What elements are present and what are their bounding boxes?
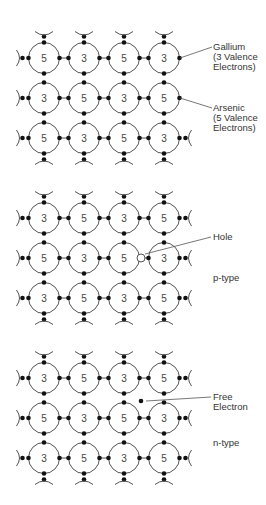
- neighbor-arc: [189, 250, 192, 266]
- hole-marker: [137, 254, 145, 262]
- electron-dot: [137, 136, 142, 141]
- electron-dot: [162, 80, 167, 85]
- electron-dot: [146, 136, 151, 141]
- neighbor-arc: [17, 250, 20, 266]
- electron-dot: [42, 400, 47, 405]
- electron-dot: [146, 456, 151, 461]
- electron-dot: [66, 416, 71, 421]
- electron-dot: [42, 80, 47, 85]
- electron-dot: [42, 240, 47, 245]
- electron-dot: [122, 111, 127, 116]
- atom-valence-number: 5: [81, 213, 87, 224]
- electron-dot: [42, 200, 47, 205]
- electron-dot: [20, 96, 25, 101]
- electron-dot: [26, 216, 31, 221]
- electron-dot: [162, 391, 167, 396]
- electron-dot: [162, 240, 167, 245]
- atom-valence-number: 3: [161, 253, 167, 264]
- electron-dot: [146, 376, 151, 381]
- electron-dot: [162, 360, 167, 365]
- electron-dot: [122, 400, 127, 405]
- electron-dot: [42, 431, 47, 436]
- electron-dot: [122, 120, 127, 125]
- electron-dot: [183, 376, 188, 381]
- electron-dot: [20, 296, 25, 301]
- electron-dot: [57, 256, 62, 261]
- electron-dot: [177, 296, 182, 301]
- electron-dot: [42, 440, 47, 445]
- electron-dot: [122, 271, 127, 276]
- electron-dot: [26, 376, 31, 381]
- electron-dot: [82, 431, 87, 436]
- electron-dot: [20, 56, 25, 61]
- atom-valence-number: 3: [41, 453, 47, 464]
- electron-dot: [162, 280, 167, 285]
- electron-dot: [162, 200, 167, 205]
- electron-dot: [42, 311, 47, 316]
- atom-valence-number: 3: [81, 53, 87, 64]
- electron-dot: [162, 431, 167, 436]
- electron-dot: [57, 416, 62, 421]
- electron-dot: [162, 111, 167, 116]
- atom-valence-number: 3: [81, 413, 87, 424]
- atom-valence-number: 5: [81, 453, 87, 464]
- electron-dot: [26, 296, 31, 301]
- atom-valence-number: 5: [121, 53, 127, 64]
- electron-dot: [106, 376, 111, 381]
- electron-dot: [42, 120, 47, 125]
- neighbor-arc: [189, 410, 192, 426]
- atom-valence-number: 5: [161, 93, 167, 104]
- electron-dot: [42, 111, 47, 116]
- electron-dot: [82, 271, 87, 276]
- atom-valence-number: 5: [121, 253, 127, 264]
- electron-dot: [146, 296, 151, 301]
- electron-dot: [26, 96, 31, 101]
- callout-label: Hole: [213, 232, 233, 242]
- electron-dot: [122, 391, 127, 396]
- crystal-lattice-diagram: 535335355353353553533535353553533535: [0, 0, 266, 505]
- electron-dot: [20, 216, 25, 221]
- electron-dot: [122, 311, 127, 316]
- atom-valence-number: 5: [81, 293, 87, 304]
- electron-dot: [42, 40, 47, 45]
- electron-dot: [183, 296, 188, 301]
- electron-dot: [146, 216, 151, 221]
- electron-dot: [97, 376, 102, 381]
- electron-dot: [177, 256, 182, 261]
- electron-dot: [162, 471, 167, 476]
- electron-dot: [66, 296, 71, 301]
- electron-dot: [82, 400, 87, 405]
- electron-dot: [162, 120, 167, 125]
- atom-valence-number: 3: [161, 413, 167, 424]
- electron-dot: [82, 240, 87, 245]
- electron-dot: [82, 360, 87, 365]
- electron-dot: [122, 240, 127, 245]
- electron-dot: [97, 256, 102, 261]
- electron-dot: [26, 136, 31, 141]
- atom-valence-number: 5: [161, 453, 167, 464]
- electron-dot: [162, 71, 167, 76]
- electron-dot: [66, 376, 71, 381]
- atom-valence-number: 3: [121, 453, 127, 464]
- electron-dot: [82, 200, 87, 205]
- electron-dot: [82, 280, 87, 285]
- electron-dot: [97, 56, 102, 61]
- electron-dot: [137, 216, 142, 221]
- neighbor-arc: [17, 210, 20, 226]
- atom-valence-number: 5: [81, 93, 87, 104]
- electron-dot: [106, 416, 111, 421]
- electron-dot: [57, 136, 62, 141]
- electron-dot: [26, 416, 31, 421]
- electron-dot: [162, 400, 167, 405]
- atom-valence-number: 5: [161, 213, 167, 224]
- electron-dot: [20, 376, 25, 381]
- electron-dot: [82, 311, 87, 316]
- neighbor-arc: [189, 130, 192, 146]
- electron-dot: [42, 471, 47, 476]
- electron-dot: [42, 360, 47, 365]
- electron-dot: [66, 136, 71, 141]
- atom-valence-number: 5: [41, 413, 47, 424]
- electron-dot: [183, 256, 188, 261]
- electron-dot: [57, 296, 62, 301]
- electron-dot: [162, 151, 167, 156]
